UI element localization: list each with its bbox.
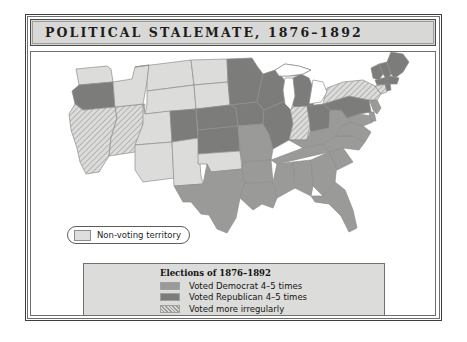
legend-swatch-republican — [160, 293, 180, 301]
legend-swatch-irregular — [160, 305, 180, 313]
state-kansas — [198, 126, 240, 154]
legend-label-republican: Voted Republican 4–5 times — [189, 292, 307, 302]
legend-content: Elections of 1876–1892 Voted Democrat 4–… — [84, 264, 384, 315]
state-california — [69, 104, 117, 174]
map-panel: Non-voting territory Elections of 1876–1… — [30, 51, 436, 316]
map-legend: Elections of 1876–1892 Voted Democrat 4–… — [83, 263, 385, 316]
figure-container: POLITICAL STALEMATE, 1876–1892 — [25, 14, 442, 321]
legend-title: Elections of 1876–1892 — [160, 268, 384, 278]
figure-title-bar-inner: POLITICAL STALEMATE, 1876–1892 — [32, 21, 434, 44]
figure-title-bar: POLITICAL STALEMATE, 1876–1892 — [30, 19, 436, 46]
legend-item-democrat: Voted Democrat 4–5 times — [160, 280, 384, 292]
non-voting-territory-label: Non-voting territory — [97, 230, 181, 240]
state-arizona — [135, 142, 174, 182]
state-mississippi — [273, 162, 295, 198]
legend-label-democrat: Voted Democrat 4–5 times — [189, 281, 302, 291]
state-ohio — [307, 104, 330, 132]
legend-item-republican: Voted Republican 4–5 times — [160, 292, 384, 304]
state-arkansas — [242, 160, 273, 183]
non-voting-territory-swatch — [74, 230, 91, 241]
state-oregon — [72, 82, 115, 110]
lake-superior — [275, 64, 311, 76]
legend-swatch-democrat — [160, 282, 180, 290]
state-idaho — [113, 65, 149, 107]
legend-item-irregular: Voted more irregularly — [160, 303, 384, 315]
state-colorado — [170, 109, 198, 142]
legend-label-irregular: Voted more irregularly — [189, 304, 284, 314]
state-louisiana — [240, 182, 277, 210]
state-south-dakota — [194, 82, 230, 109]
state-oklahoma — [198, 151, 242, 172]
state-alabama — [293, 160, 313, 196]
non-voting-territory-callout: Non-voting territory — [67, 226, 190, 244]
page-title: POLITICAL STALEMATE, 1876–1892 — [33, 25, 363, 40]
state-north-dakota — [191, 59, 228, 85]
state-nebraska — [196, 105, 238, 130]
